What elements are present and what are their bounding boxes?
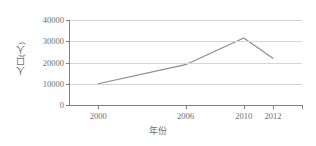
y-tick-label: 0 xyxy=(60,101,64,110)
x-tick-mark xyxy=(244,105,245,109)
y-tick-label: 10000 xyxy=(43,80,64,89)
x-tick-mark xyxy=(98,105,99,109)
gridline-y xyxy=(69,84,302,85)
y-tick-mark xyxy=(66,84,70,85)
x-tick-label: 2006 xyxy=(177,112,194,121)
x-axis-end-tick xyxy=(302,105,303,109)
y-tick-label: 30000 xyxy=(43,37,64,46)
population-line xyxy=(98,38,273,84)
x-tick-mark xyxy=(273,105,274,109)
line-chart: 人口(人) 010000200003000040000 年份 200020062… xyxy=(0,0,316,146)
y-tick-mark xyxy=(66,105,70,106)
x-axis-title: 年份 xyxy=(0,127,316,136)
y-axis-tick-labels: 010000200003000040000 xyxy=(28,0,64,146)
gridline-y xyxy=(69,63,302,64)
y-axis-title: 人口(人) xyxy=(13,28,29,90)
y-tick-mark xyxy=(66,63,70,64)
gridline-y xyxy=(69,20,302,21)
x-tick-label: 2012 xyxy=(264,112,281,121)
y-tick-mark xyxy=(66,41,70,42)
x-tick-mark xyxy=(186,105,187,109)
y-tick-mark xyxy=(66,20,70,21)
x-tick-label: 2010 xyxy=(235,112,252,121)
y-tick-label: 40000 xyxy=(43,16,64,25)
plot-area xyxy=(69,20,302,105)
gridline-y xyxy=(69,41,302,42)
y-tick-label: 20000 xyxy=(43,58,64,67)
x-tick-label: 2000 xyxy=(90,112,107,121)
